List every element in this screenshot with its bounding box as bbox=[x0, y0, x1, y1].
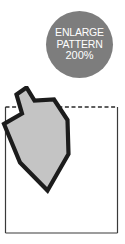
pattern-plate bbox=[0, 86, 125, 244]
pattern-diagram bbox=[0, 86, 125, 244]
pattern-sheet: ENLARGE PATTERN 200% bbox=[0, 0, 125, 244]
enlarge-pattern-badge: ENLARGE PATTERN 200% bbox=[46, 11, 113, 78]
badge-line-percent: 200% bbox=[65, 50, 93, 62]
